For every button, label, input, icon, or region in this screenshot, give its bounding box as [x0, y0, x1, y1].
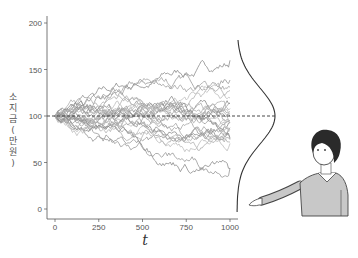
hand-icon: [249, 198, 262, 206]
random-walk-path: [55, 116, 230, 173]
chart-svg: 050100150200 02505007501000 t: [0, 0, 358, 258]
x-ticks: 02505007501000: [53, 219, 240, 232]
random-walk-paths: [55, 60, 230, 177]
x-axis-title: t: [142, 232, 148, 248]
eye-icon: [324, 149, 326, 151]
x-tick-label: 750: [180, 223, 194, 232]
y-tick-label: 100: [29, 112, 43, 121]
y-tick-label: 200: [29, 19, 43, 28]
x-tick-label: 1000: [221, 223, 239, 232]
chart-figure: 050100150200 02505007501000 t 소지금(: [0, 0, 358, 258]
y-ticks: 050100150200: [29, 19, 47, 214]
y-tick-label: 50: [33, 159, 42, 168]
x-tick-label: 0: [53, 223, 58, 232]
y-tick-label: 150: [29, 66, 43, 75]
normal-distribution-curve: [237, 40, 275, 212]
y-tick-label: 0: [38, 205, 43, 214]
x-tick-label: 500: [136, 223, 150, 232]
eye-icon: [317, 149, 319, 151]
y-axis-title: 소지금(만원): [7, 92, 19, 169]
x-tick-label: 250: [92, 223, 106, 232]
person-illustration: [249, 130, 348, 216]
